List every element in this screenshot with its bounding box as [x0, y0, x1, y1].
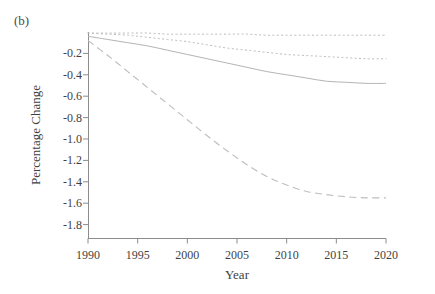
figure-panel-b: (b) Percentage Change Year -0.2-0.4-0.6-… — [0, 0, 435, 294]
plot-area — [0, 0, 435, 294]
data-series-group — [88, 33, 386, 198]
series-line-1 — [88, 33, 386, 35]
series-line-2 — [88, 33, 386, 59]
x-axis-ticks — [88, 239, 386, 244]
series-line-4 — [88, 41, 386, 198]
axis-lines — [88, 32, 386, 239]
y-axis-ticks — [83, 53, 88, 224]
series-line-3 — [88, 36, 386, 83]
